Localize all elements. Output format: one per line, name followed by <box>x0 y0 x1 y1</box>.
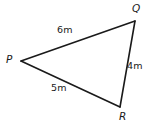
side-length-label-pr: 5m <box>51 83 67 93</box>
vertex-label-q: Q <box>132 3 140 14</box>
side-length-label-qr: 4m <box>127 61 143 71</box>
vertex-label-p: P <box>6 54 12 65</box>
vertex-label-r: R <box>119 111 126 122</box>
side-length-label-pq: 6m <box>57 25 73 35</box>
triangle-diagram: P Q R 6m 4m 5m <box>0 0 150 128</box>
